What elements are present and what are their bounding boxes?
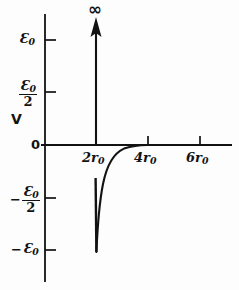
minus-sign: − (11, 243, 23, 256)
potential-energy-diagram: V 0 Ɛ0 Ɛ0 2 − Ɛ0 2 −Ɛ0 2r0 4r0 6r0 ∞ (0, 0, 239, 290)
y-tick-label-eps0: Ɛ0 (19, 32, 35, 47)
r-glyph: r (91, 150, 98, 165)
x-tick-coefficient: 6 (186, 150, 195, 165)
epsilon-subscript: 0 (29, 83, 36, 94)
r-subscript: 0 (150, 155, 157, 166)
x-tick-coefficient: 4 (134, 150, 143, 165)
x-tick-coefficient: 2 (82, 150, 91, 165)
epsilon-glyph: Ɛ (23, 241, 32, 256)
minus-sign: − (10, 193, 22, 206)
fraction-neg-eps0-over-2: Ɛ0 2 (22, 185, 40, 215)
fraction-numerator: Ɛ0 (19, 79, 37, 94)
epsilon-glyph: Ɛ (20, 78, 29, 93)
y-tick-label-zero: 0 (31, 138, 40, 151)
r-glyph: r (143, 150, 150, 165)
x-tick-label-4r0: 4r0 (134, 151, 156, 165)
r-subscript: 0 (202, 155, 209, 166)
fraction-eps0-over-2: Ɛ0 2 (19, 79, 37, 109)
y-tick-label-neg-eps0-text: Ɛ0 (23, 242, 39, 256)
fraction-denominator: 2 (22, 200, 40, 215)
y-tick-label-neg-eps0: −Ɛ0 (11, 242, 39, 257)
epsilon-subscript: 0 (28, 36, 35, 47)
r-subscript: 0 (98, 155, 105, 166)
epsilon-glyph: Ɛ (23, 184, 32, 199)
x-tick-label-2r0: 2r0 (82, 151, 104, 165)
fraction-numerator: Ɛ0 (22, 185, 40, 200)
y-tick-label-eps0-half: Ɛ0 2 (19, 79, 37, 109)
y-tick-label-neg-eps0-half: − Ɛ0 2 (10, 185, 40, 215)
fraction-denominator: 2 (19, 94, 37, 109)
r-glyph: r (195, 150, 202, 165)
epsilon-subscript: 0 (32, 189, 39, 200)
epsilon-subscript: 0 (32, 246, 39, 257)
epsilon-glyph: Ɛ (19, 31, 28, 46)
infinity-label: ∞ (88, 1, 102, 18)
x-tick-label-6r0: 6r0 (186, 151, 208, 165)
y-axis-title: V (11, 112, 22, 126)
y-tick-label-eps0-text: Ɛ0 (19, 32, 35, 46)
